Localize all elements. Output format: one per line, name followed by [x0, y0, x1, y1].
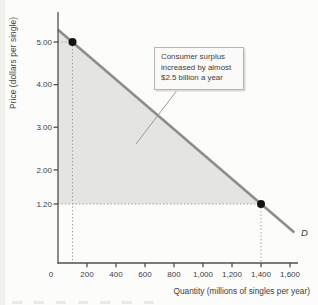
figure-page: 5.004.003.002.001.2002004006008001,0001,…: [0, 0, 318, 305]
y-tick-label: 5.00: [36, 38, 52, 47]
y-tick-label: 4.00: [36, 80, 52, 89]
x-tick-label: 0: [49, 270, 54, 279]
x-tick-label: 1,400: [251, 270, 272, 279]
x-tick-label: 200: [80, 270, 94, 279]
x-tick-label: 1,200: [222, 270, 243, 279]
y-tick-label: 1.20: [36, 200, 52, 209]
annotation-box: Consumer surplus increased by almost $2.…: [154, 47, 244, 90]
chart-canvas: 5.004.003.002.001.2002004006008001,0001,…: [0, 0, 318, 305]
marked-point: [257, 200, 265, 208]
x-axis-title: Quantity (millions of singles per year): [0, 286, 310, 296]
y-tick-label: 3.00: [36, 123, 52, 132]
x-tick-label: 800: [167, 270, 181, 279]
cropped-caption-remnant: [12, 301, 162, 304]
demand-curve-label: D: [301, 227, 308, 238]
x-tick-label: 1,000: [193, 270, 214, 279]
x-tick-label: 1,600: [280, 270, 301, 279]
y-tick-label: 2.00: [36, 166, 52, 175]
x-tick-label: 400: [109, 270, 123, 279]
x-tick-label: 600: [138, 270, 152, 279]
y-axis-title: Price (dollars per single): [8, 17, 18, 109]
marked-point: [69, 38, 77, 46]
annotation-text: Consumer surplus increased by almost $2.…: [161, 52, 231, 82]
